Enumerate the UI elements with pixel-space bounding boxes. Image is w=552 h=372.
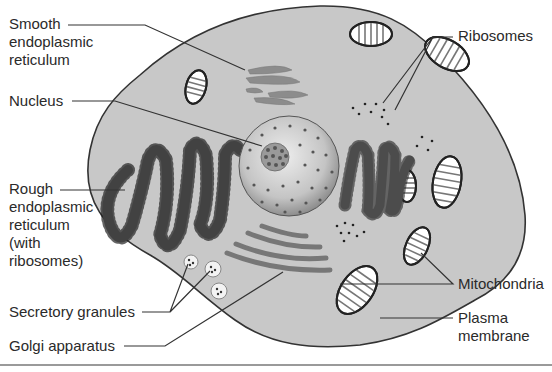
bottom-divider [0,364,552,366]
label-plasma-membrane: Plasma membrane [458,309,530,345]
label-mitochondria: Mitochondria [458,275,544,293]
label-nucleus: Nucleus [9,92,63,110]
nucleus [239,116,339,216]
label-ribosomes: Ribosomes [458,27,533,45]
label-golgi-apparatus: Golgi apparatus [9,337,115,355]
label-rough-er: Rough endoplasmic reticulum (with riboso… [9,180,93,270]
label-secretory-granules: Secretory granules [9,303,135,321]
label-smooth-er: Smooth endoplasmic reticulum [9,15,93,69]
